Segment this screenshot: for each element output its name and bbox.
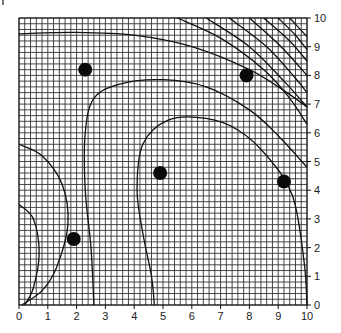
x-axis-ticks: 012345678910 — [16, 305, 313, 322]
y-tick-label: 8 — [314, 69, 320, 81]
y-tick-label: 10 — [314, 12, 326, 24]
contour-scatter-chart: 012345678910 012345678910 — [0, 0, 341, 333]
x-tick-label: 9 — [275, 310, 281, 322]
data-point — [240, 68, 254, 82]
data-point — [153, 166, 167, 180]
y-tick-label: 4 — [314, 184, 320, 196]
y-axis-ticks: 012345678910 — [307, 12, 326, 311]
y-tick-label: 6 — [314, 127, 320, 139]
data-point — [277, 175, 291, 189]
y-tick-label: 2 — [314, 242, 320, 254]
grid — [19, 18, 307, 305]
x-tick-label: 3 — [102, 310, 108, 322]
contour-arc-7 — [290, 18, 307, 37]
y-tick-label: 9 — [314, 41, 320, 53]
x-tick-label: 6 — [189, 310, 195, 322]
y-tick-label: 3 — [314, 213, 320, 225]
x-tick-label: 0 — [16, 310, 22, 322]
x-tick-label: 8 — [246, 310, 252, 322]
x-tick-label: 5 — [160, 310, 166, 322]
x-tick-label: 2 — [74, 310, 80, 322]
data-point — [67, 232, 81, 246]
y-tick-label: 7 — [314, 98, 320, 110]
data-point — [78, 63, 92, 77]
x-tick-label: 7 — [218, 310, 224, 322]
contour-upper-left-loop — [84, 80, 307, 305]
y-tick-label: 5 — [314, 156, 320, 168]
x-tick-label: 10 — [301, 310, 313, 322]
y-tick-label: 0 — [314, 299, 320, 311]
x-tick-label: 1 — [45, 310, 51, 322]
x-tick-label: 4 — [131, 310, 137, 322]
y-tick-label: 1 — [314, 270, 320, 282]
axis-label-fragment — [2, 0, 4, 5]
